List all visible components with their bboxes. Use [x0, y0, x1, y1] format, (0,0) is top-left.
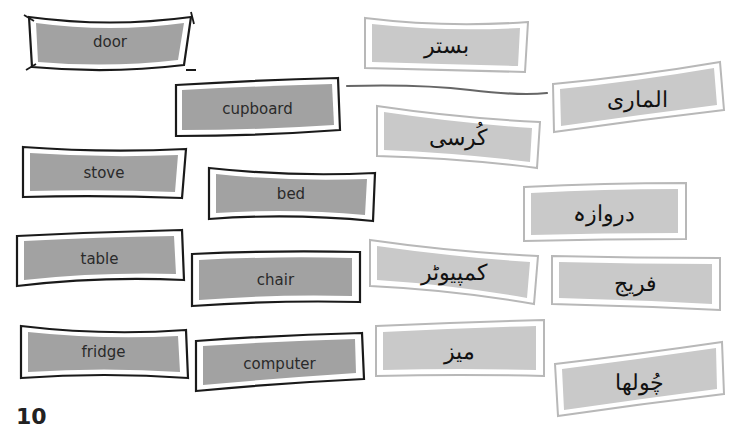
word-label: table: [12, 250, 187, 268]
word-label: بستر: [360, 33, 532, 58]
word-card-almari[interactable]: الماری: [548, 58, 726, 136]
word-label: کمپیوٹر: [366, 260, 541, 285]
word-label: فریج: [548, 271, 723, 296]
word-label: cupboard: [170, 100, 345, 118]
word-card-table[interactable]: table: [12, 228, 187, 290]
word-card-door[interactable]: door: [24, 12, 196, 72]
word-card-fridge[interactable]: fridge: [16, 322, 191, 382]
word-card-chair[interactable]: chair: [188, 250, 363, 310]
word-card-kursi[interactable]: کُرسی: [372, 102, 544, 172]
word-label: چُولھا: [550, 369, 728, 394]
word-card-computer[interactable]: computer: [192, 333, 367, 395]
word-label: دروازہ: [518, 201, 690, 226]
word-label: fridge: [16, 343, 191, 361]
word-card-bistar[interactable]: بستر: [360, 14, 532, 76]
word-card-darwaza[interactable]: دروازہ: [518, 183, 690, 243]
word-card-stove[interactable]: stove: [18, 143, 190, 203]
word-label: bed: [205, 185, 377, 203]
word-label: stove: [18, 164, 190, 182]
word-card-computer-ur[interactable]: کمپیوٹر: [366, 236, 541, 308]
word-label: door: [24, 33, 196, 51]
word-card-cupboard[interactable]: cupboard: [170, 78, 345, 140]
word-label: کُرسی: [372, 125, 544, 150]
word-label: میز: [372, 339, 547, 364]
word-label: الماری: [548, 86, 726, 111]
word-label: chair: [188, 271, 363, 289]
word-card-choolha[interactable]: چُولھا: [550, 340, 728, 420]
word-card-mez[interactable]: میز: [372, 320, 547, 382]
word-card-bed[interactable]: bed: [205, 163, 377, 225]
word-card-fridge-ur[interactable]: فریج: [548, 252, 723, 314]
word-label: computer: [192, 355, 367, 373]
page-number: 10: [16, 404, 47, 429]
